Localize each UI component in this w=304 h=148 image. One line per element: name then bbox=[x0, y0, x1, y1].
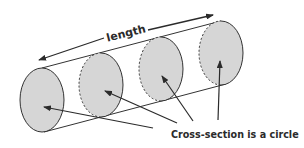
cylinder-diagram: length Cross-section is a circle bbox=[0, 0, 304, 148]
length-dimension-arrow: length bbox=[39, 15, 213, 60]
pointer-arrows bbox=[44, 61, 220, 128]
cross-section-4 bbox=[199, 21, 243, 85]
caption-label: Cross-section is a circle bbox=[171, 129, 299, 140]
cross-section-3 bbox=[139, 37, 183, 101]
diagram-canvas: length bbox=[0, 0, 304, 148]
length-label: length bbox=[105, 22, 147, 44]
cross-section-1 bbox=[20, 68, 64, 132]
cross-section-2 bbox=[79, 53, 123, 117]
